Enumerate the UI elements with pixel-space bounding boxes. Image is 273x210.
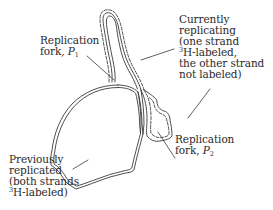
label-previously-replicated: Previously replicated (both strands 3H-l… xyxy=(9,154,79,198)
currently-replicating-right-branch xyxy=(141,90,172,141)
label-currently-replicating: Currently replicating (one strand 3H-lab… xyxy=(179,14,264,80)
leader-currently-replicating xyxy=(141,49,174,60)
previous-line4: 3H-labeled) xyxy=(9,187,79,198)
fork-p1-line2: fork, P1 xyxy=(40,46,99,57)
current-line6: not labeled) xyxy=(179,69,264,80)
leader-currently-replicating-lower xyxy=(188,89,210,118)
label-fork-p1: Replication fork, P1 xyxy=(40,35,99,57)
diagram-canvas: Replication fork, P1 Currently replicati… xyxy=(0,0,273,210)
currently-replicating-upper-loop xyxy=(100,10,144,90)
fork-p2-line2: fork, P2 xyxy=(175,145,234,156)
label-fork-p2: Replication fork, P2 xyxy=(175,134,234,156)
